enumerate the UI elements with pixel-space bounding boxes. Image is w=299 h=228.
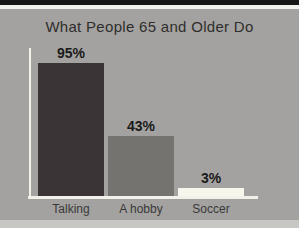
y-axis-line [29,48,31,198]
scanned-slide: What People 65 and Older Do 95%Talking43… [0,0,299,228]
bar-category-label: Talking [36,202,106,216]
chart-title: What People 65 and Older Do [0,18,299,35]
bar-value-label: 3% [176,170,246,186]
bar-talking [38,63,104,196]
bar-category-label: Soccer [176,202,246,216]
bottom-edge-strip [0,220,299,228]
bar-value-label: 43% [106,118,176,134]
bar-soccer [178,188,244,196]
bar-category-label: A hobby [106,202,176,216]
bar-value-label: 95% [36,45,106,61]
bar-chart: What People 65 and Older Do 95%Talking43… [0,0,299,228]
bar-a-hobby [108,136,174,196]
x-axis-line [28,196,258,199]
